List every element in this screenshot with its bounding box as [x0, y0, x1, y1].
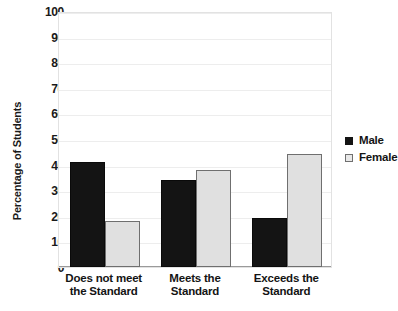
x-axis-label-line: Standard: [149, 285, 240, 298]
bar-group: [242, 13, 333, 267]
legend-item-male: Male: [345, 133, 397, 148]
bar-female: [287, 154, 322, 267]
legend-label-female: Female: [359, 152, 397, 164]
legend-label-male: Male: [359, 135, 384, 147]
x-axis-label-line: Does not meet: [58, 272, 149, 285]
plot-area: [58, 12, 332, 268]
x-axis-label-line: Standard: [241, 285, 332, 298]
legend-item-female: Female: [345, 150, 397, 165]
y-axis-title: Percentage of Students: [11, 86, 23, 236]
bar-female: [196, 170, 231, 267]
x-axis-category-label: Does not meetthe Standard: [58, 272, 149, 298]
x-axis-category-label: Meets theStandard: [149, 272, 240, 298]
x-axis-label-line: the Standard: [58, 285, 149, 298]
bar-female: [105, 221, 140, 267]
x-axis-label-line: Exceeds the: [241, 272, 332, 285]
bar-chart: Percentage of Students 01020304050607080…: [0, 0, 398, 311]
bar-male: [70, 162, 105, 267]
bar-group: [59, 13, 150, 267]
bar-group: [150, 13, 241, 267]
x-axis-label-line: Meets the: [149, 272, 240, 285]
x-axis-category-label: Exceeds theStandard: [241, 272, 332, 298]
bar-male: [252, 218, 287, 267]
legend-swatch-female-icon: [345, 154, 353, 162]
bar-male: [161, 180, 196, 267]
legend: Male Female: [345, 133, 397, 167]
legend-swatch-male-icon: [345, 137, 353, 145]
